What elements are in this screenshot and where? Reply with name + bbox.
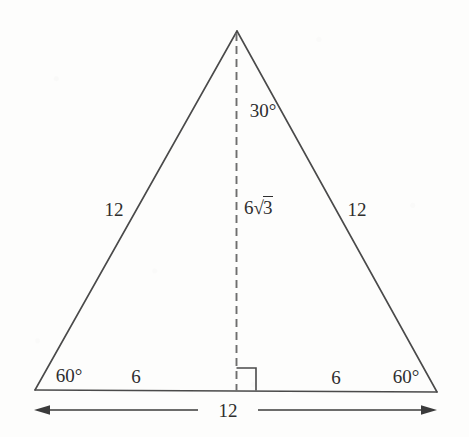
triangle-left-side-line [35, 31, 237, 390]
right-angle-marker-icon [237, 368, 257, 391]
radical-group: √3 [254, 198, 274, 217]
geometry-figure: 30° 6√3 12 12 60° 60° 6 6 12 [0, 0, 469, 437]
right-base-angle-label: 60° [393, 367, 420, 386]
radicand: 3 [263, 196, 274, 218]
left-side-length-label: 12 [105, 200, 124, 219]
base-dimension-label: 12 [219, 401, 238, 420]
left-half-base-label: 6 [131, 367, 141, 386]
altitude-length-label: 6√3 [244, 198, 273, 217]
right-half-base-label: 6 [331, 368, 341, 387]
right-side-length-label: 12 [348, 200, 367, 219]
dimension-arrowhead-right-icon [421, 405, 437, 414]
dimension-arrowhead-left-icon [34, 405, 50, 414]
apex-angle-label: 30° [250, 101, 277, 120]
left-base-angle-label: 60° [56, 366, 83, 385]
altitude-coefficient: 6 [244, 197, 254, 218]
